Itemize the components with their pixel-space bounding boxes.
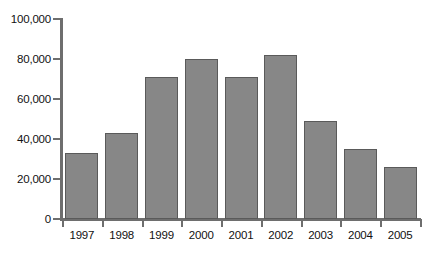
x-axis-category-label: 1998 [109, 229, 134, 241]
x-axis-tick [301, 219, 303, 227]
bar-2005 [384, 167, 417, 219]
x-axis-category-label: 1999 [149, 229, 174, 241]
x-axis-tick [340, 219, 342, 227]
bar-1997 [65, 153, 98, 219]
y-axis-tick-label: 100,000 [0, 13, 51, 25]
y-axis-tick-label: 0 [0, 213, 51, 225]
bar-chart-figure: 020,00040,00060,00080,000100,000 1997199… [0, 0, 433, 254]
bar-2004 [344, 149, 377, 219]
bar-2000 [185, 59, 218, 219]
bar-2002 [264, 55, 297, 219]
x-axis-tick [261, 219, 263, 227]
x-axis-tick [181, 219, 183, 227]
x-axis-tick [62, 219, 64, 227]
bar-1999 [145, 77, 178, 219]
x-axis-tick [420, 219, 422, 227]
x-axis-category-label: 2002 [268, 229, 293, 241]
x-axis-tick [102, 219, 104, 227]
x-axis-category-label: 2000 [189, 229, 214, 241]
y-axis-tick-label: 40,000 [0, 133, 51, 145]
y-axis-tick-label: 60,000 [0, 93, 51, 105]
bar-2001 [225, 77, 258, 219]
x-axis-tick [142, 219, 144, 227]
y-axis-tick-label: 20,000 [0, 173, 51, 185]
plot-area [62, 19, 420, 219]
bar-2003 [304, 121, 337, 219]
x-axis-category-label: 2004 [348, 229, 373, 241]
x-axis-category-label: 2003 [308, 229, 333, 241]
x-axis-category-label: 2005 [388, 229, 413, 241]
y-axis-tick-label: 80,000 [0, 53, 51, 65]
bar-1998 [105, 133, 138, 219]
x-axis-category-label: 1997 [69, 229, 94, 241]
x-axis-tick [380, 219, 382, 227]
x-axis-category-label: 2001 [229, 229, 254, 241]
x-axis-tick [221, 219, 223, 227]
